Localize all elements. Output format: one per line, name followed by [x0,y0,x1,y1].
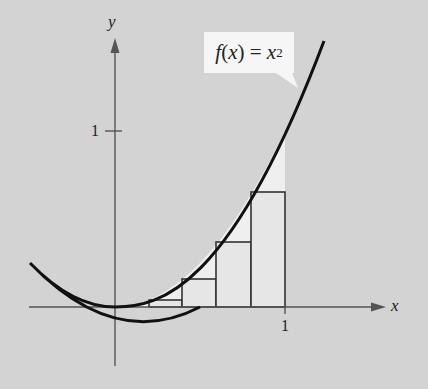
y-tick-label: 1 [91,122,99,139]
x-axis-label: x [390,296,399,315]
x-tick-label: 1 [281,317,289,334]
rectangle-3 [182,279,216,307]
y-axis-arrow-icon [111,38,120,53]
x-axis-arrow-icon [371,303,386,312]
y-axis-label: y [106,12,116,31]
callout-pointer [276,73,298,88]
rectangle-5 [251,192,285,307]
function-variable: x [228,40,237,65]
function-label: f(x) = x2 [204,32,294,73]
function-name: f [215,40,221,65]
function-rhs: x [267,40,276,65]
function-exponent: 2 [276,45,283,61]
rectangle-4 [216,242,251,307]
